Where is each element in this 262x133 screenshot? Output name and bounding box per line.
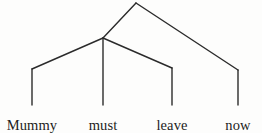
- syntax-tree-figure: Mummymustleavenow: [0, 0, 262, 133]
- branch-root-to-internal: [103, 3, 136, 38]
- branch-internal-to-mummy: [32, 38, 103, 69]
- branch-group: [32, 3, 238, 105]
- branch-internal-to-leave: [103, 38, 172, 68]
- branch-root-to-now: [136, 3, 238, 70]
- syntax-tree-svg: [0, 0, 262, 133]
